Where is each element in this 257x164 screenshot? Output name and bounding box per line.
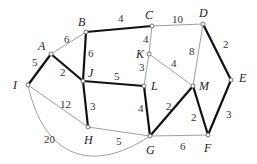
node-H [86, 125, 90, 129]
edge-G-M [150, 86, 193, 136]
weighted-graph-diagram: 652641042834531220542236 ABCDEFGHIJKLM [0, 0, 257, 164]
node-label-E: E [238, 71, 247, 85]
node-D [201, 22, 205, 26]
edge-weight-K-L: 3 [139, 61, 145, 73]
node-label-G: G [146, 143, 155, 157]
edge-B-C [86, 26, 152, 32]
edge-weight-B-J: 6 [88, 47, 94, 59]
node-M [191, 84, 195, 88]
edge-weight-D-E: 2 [223, 38, 229, 50]
edge-J-H [83, 81, 88, 127]
node-label-D: D [198, 6, 208, 20]
edge-weight-J-H: 3 [90, 100, 96, 112]
edge-weight-J-L: 5 [114, 70, 120, 82]
edge-A-J [51, 54, 83, 81]
edge-weight-I-H: 12 [60, 98, 71, 110]
node-label-B: B [78, 15, 86, 29]
edge-weight-H-G: 5 [116, 135, 122, 147]
edge-B-J [83, 32, 86, 81]
node-K [147, 52, 151, 56]
edge-weight-A-J: 2 [60, 66, 66, 78]
node-J [81, 79, 85, 83]
node-label-L: L [150, 79, 158, 93]
node-label-M: M [198, 79, 210, 93]
edge-D-E [203, 24, 231, 80]
edge-weight-E-F: 3 [226, 108, 232, 120]
edge-weight-L-G: 4 [138, 102, 144, 114]
node-label-I: I [12, 78, 18, 92]
edge-weight-C-D: 10 [172, 13, 184, 25]
edge-G-F [150, 135, 208, 136]
node-label-H: H [83, 133, 94, 147]
edge-weight-G-M: 2 [166, 100, 172, 112]
edge-L-G [144, 86, 150, 136]
edge-weight-K-M: 4 [171, 57, 177, 69]
node-label-F: F [203, 141, 212, 155]
edge-weight-I-G: 20 [44, 133, 56, 145]
edge-D-M [193, 24, 203, 86]
edge-weight-A-I: 5 [32, 56, 38, 68]
edge-weight-B-C: 4 [118, 12, 124, 24]
node-label-A: A [37, 39, 46, 53]
edge-weight-C-K: 4 [143, 33, 149, 45]
edge-K-L [144, 54, 149, 86]
node-label-K: K [135, 47, 145, 61]
node-G [148, 134, 152, 138]
edge-weight-A-B: 6 [64, 33, 70, 45]
node-F [206, 133, 210, 137]
edge-weight-M-F: 2 [191, 111, 197, 123]
node-B [84, 30, 88, 34]
edge-weight-D-M: 8 [189, 45, 195, 57]
edge-C-K [149, 26, 152, 54]
node-A [49, 52, 53, 56]
edge-I-H [28, 85, 88, 127]
node-label-J: J [88, 66, 94, 80]
node-label-C: C [145, 8, 154, 22]
node-E [229, 78, 233, 82]
node-C [150, 24, 154, 28]
edge-weight-G-F: 6 [180, 140, 186, 152]
node-I [26, 83, 30, 87]
node-L [142, 84, 146, 88]
